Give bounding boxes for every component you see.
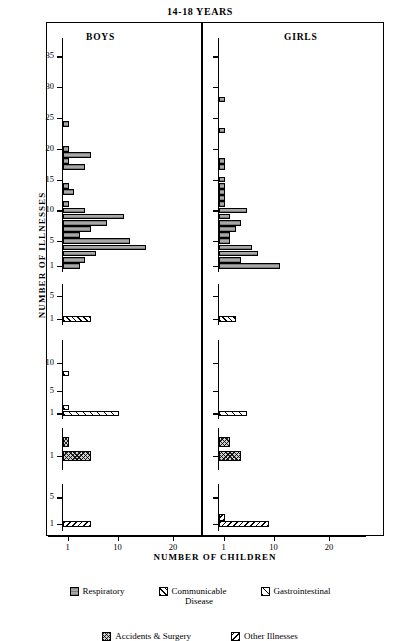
- bar: [219, 189, 225, 195]
- y-axis-tick: [213, 87, 218, 88]
- legend-item-respiratory[interactable]: Respiratory: [70, 586, 125, 596]
- bar: [219, 164, 225, 170]
- y-axis-tick: [213, 266, 218, 267]
- y-axis-tick-label: 5: [28, 236, 54, 245]
- bar: [63, 521, 91, 527]
- y-axis-tick: [57, 241, 62, 242]
- bar: [63, 232, 80, 238]
- x-axis-label: NUMBER OF CHILDREN: [46, 552, 384, 562]
- bar: [63, 451, 91, 461]
- bar: [219, 220, 241, 226]
- y-axis-tick-label: 30: [28, 82, 54, 91]
- bar: [63, 316, 91, 321]
- y-axis-line: [218, 428, 219, 470]
- bar: [63, 238, 130, 244]
- y-axis-tick: [57, 524, 62, 525]
- bar: [63, 220, 107, 226]
- bar: [219, 238, 230, 244]
- y-axis-tick: [57, 413, 62, 414]
- legend-row-primary: RespiratoryCommunicableDiseaseGastrointe…: [0, 586, 400, 607]
- x-axis-tick-label: 10: [263, 542, 285, 552]
- bar: [219, 245, 252, 251]
- x-axis-tick: [118, 536, 119, 541]
- bar: [63, 121, 69, 127]
- bar: [63, 263, 80, 269]
- bar: [63, 183, 69, 189]
- bar: [63, 371, 69, 376]
- bar: [63, 245, 146, 251]
- x-axis-tick: [329, 536, 330, 541]
- y-axis-tick: [57, 87, 62, 88]
- legend-swatch-respiratory-icon: [70, 587, 79, 596]
- bar: [63, 251, 96, 257]
- bar: [219, 257, 241, 263]
- y-axis-tick-label: 5: [28, 291, 54, 300]
- legend-swatch-accidents-icon: [102, 632, 111, 641]
- legend-item-gastrointestinal[interactable]: Gastrointestinal: [261, 586, 331, 596]
- x-axis-tick: [224, 536, 225, 541]
- panel-header-boys: BOYS: [86, 32, 115, 42]
- y-axis-tick-label: 25: [28, 113, 54, 122]
- y-axis-tick: [213, 149, 218, 150]
- bar: [219, 128, 225, 134]
- y-axis-tick-label: 5: [28, 492, 54, 501]
- y-axis-tick: [213, 456, 218, 457]
- bar: [63, 411, 119, 416]
- x-axis-tick: [173, 536, 174, 541]
- y-axis-tick-label: 35: [28, 51, 54, 60]
- y-axis-tick: [213, 241, 218, 242]
- bar: [219, 195, 225, 201]
- y-axis-tick: [57, 391, 62, 392]
- x-axis-tick-label: 20: [318, 542, 340, 552]
- legend-item-other[interactable]: Other Illnesses: [231, 631, 298, 641]
- x-axis-tick-label: 20: [162, 542, 184, 552]
- bar: [219, 437, 230, 447]
- bar: [219, 316, 236, 321]
- legend-swatch-communicable-icon: [159, 587, 168, 596]
- y-axis-tick: [57, 180, 62, 181]
- bar: [63, 226, 91, 232]
- legend-item-communicable[interactable]: CommunicableDisease: [159, 586, 227, 607]
- y-axis-tick: [213, 319, 218, 320]
- bar: [219, 201, 225, 207]
- plot-frame: [46, 22, 384, 536]
- bar: [63, 405, 69, 410]
- y-axis-tick: [57, 149, 62, 150]
- legend-item-accidents[interactable]: Accidents & Surgery: [102, 631, 191, 641]
- bar: [63, 189, 74, 195]
- bar: [219, 183, 225, 189]
- y-axis-tick: [213, 180, 218, 181]
- bar: [219, 177, 225, 183]
- x-axis-tick: [68, 536, 69, 541]
- panel-divider: [201, 22, 203, 536]
- y-axis-tick: [213, 524, 218, 525]
- legend-label-line2: Disease: [172, 596, 227, 606]
- bar: [219, 208, 247, 214]
- bar: [63, 164, 85, 170]
- y-axis-tick: [213, 56, 218, 57]
- y-axis-tick: [213, 363, 218, 364]
- legend-label: CommunicableDisease: [172, 586, 227, 607]
- bar: [219, 514, 225, 520]
- y-axis-tick: [213, 210, 218, 211]
- legend-label: Gastrointestinal: [274, 586, 331, 596]
- bar: [219, 263, 280, 269]
- y-axis-line: [62, 428, 63, 470]
- y-axis-tick: [57, 456, 62, 457]
- panel-header-girls: GIRLS: [284, 32, 318, 42]
- y-axis-tick-label: 10: [28, 205, 54, 214]
- y-axis-tick-label: 1: [28, 408, 54, 417]
- x-axis-tick: [274, 536, 275, 541]
- x-axis-tick-label: 1: [57, 542, 79, 552]
- y-axis-tick: [57, 118, 62, 119]
- y-axis-tick: [57, 497, 62, 498]
- bar: [63, 257, 85, 263]
- bar: [219, 232, 230, 238]
- y-axis-tick: [213, 118, 218, 119]
- y-axis-tick: [57, 56, 62, 57]
- bar: [219, 251, 258, 257]
- x-axis-tick-label: 1: [213, 542, 235, 552]
- bar: [219, 411, 247, 416]
- bar: [63, 152, 91, 158]
